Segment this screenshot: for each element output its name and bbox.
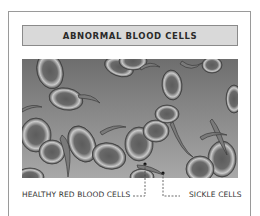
sickle-cells-label: SICKLE CELLS xyxy=(189,190,242,199)
leader-lines xyxy=(0,0,260,216)
healthy-cells-label: HEALTHY RED BLOOD CELLS xyxy=(22,190,130,199)
